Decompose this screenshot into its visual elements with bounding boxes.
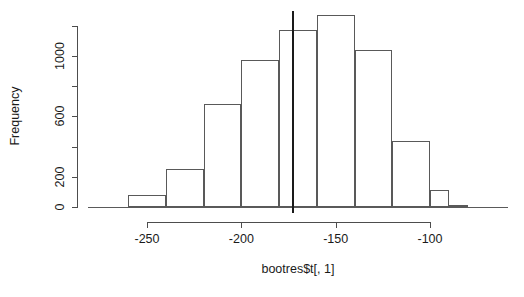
histogram-bar xyxy=(279,30,317,207)
x-axis-tick xyxy=(336,222,337,228)
histogram-bar xyxy=(355,50,393,207)
y-axis-tick xyxy=(72,177,78,178)
y-axis-title: Frequency xyxy=(8,87,22,146)
histogram-bar xyxy=(317,15,355,207)
histogram-bar xyxy=(449,205,468,207)
y-axis-tick-label: 0 xyxy=(53,204,67,211)
x-axis-line xyxy=(147,222,430,223)
histogram-bar xyxy=(128,195,166,207)
y-axis-tick-label: 600 xyxy=(53,106,67,127)
y-axis-tick-label: 1000 xyxy=(53,42,67,70)
x-axis-tick xyxy=(430,222,431,228)
y-axis-tick xyxy=(72,147,78,148)
y-axis-tick xyxy=(72,86,78,87)
x-axis-tick-label: -200 xyxy=(229,232,254,246)
histogram-bar xyxy=(166,169,204,207)
histogram-plot: Frequency 02006001000 -250-200-150-100 b… xyxy=(0,0,524,297)
plot-baseline xyxy=(88,207,508,208)
histogram-bar xyxy=(430,190,449,207)
y-axis-tick xyxy=(72,56,78,57)
x-axis-tick-label: -150 xyxy=(323,232,348,246)
histogram-bar xyxy=(204,104,242,207)
y-axis-tick-label: 200 xyxy=(53,166,67,187)
x-axis-tick-label: -100 xyxy=(417,232,442,246)
x-axis-tick xyxy=(147,222,148,228)
y-axis-tick xyxy=(72,26,78,27)
x-axis-tick xyxy=(241,222,242,228)
observed-value-line xyxy=(292,11,294,213)
x-axis-tick-label: -250 xyxy=(134,232,159,246)
histogram-bar xyxy=(392,141,430,207)
y-axis-tick xyxy=(72,116,78,117)
x-axis-title: bootres$t[, 1] xyxy=(261,262,334,276)
y-axis-tick xyxy=(72,207,78,208)
histogram-bar xyxy=(241,60,279,207)
